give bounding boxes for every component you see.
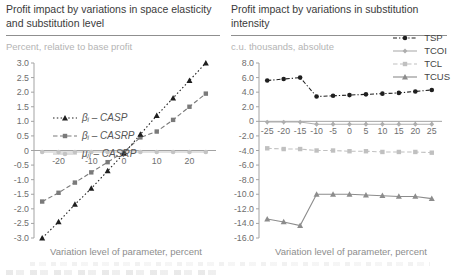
svg-text:2.0: 2.0 [242, 101, 254, 111]
legend-item-casrp-beta: βᵢ – CASRP [52, 127, 136, 145]
tcoi-legend-marker-icon [392, 46, 418, 56]
tcus-legend-marker-icon [392, 72, 418, 82]
svg-text:0.5: 0.5 [17, 131, 29, 141]
right-chart-svg: 8.06.04.02.00-2.0-4.0-6.0-8.0-10.0-12.0-… [231, 55, 452, 245]
legend-label-casrp-beta: βᵢ – CASRP [82, 130, 135, 141]
svg-text:6.0: 6.0 [242, 72, 254, 82]
right-chart-panel: Profit impact by variations in substitut… [226, 0, 453, 276]
legend-label-casp: βᵢ – CASP [82, 112, 127, 123]
left-xaxis-label: Variation level of parameter, percent [30, 246, 222, 257]
svg-text:-6.0: -6.0 [239, 160, 254, 170]
svg-text:-3.0: -3.0 [14, 233, 29, 243]
svg-text:0: 0 [347, 126, 352, 136]
svg-text:15: 15 [394, 126, 404, 136]
casrp-beta-legend-marker-icon [52, 131, 78, 141]
svg-text:1.0: 1.0 [17, 116, 29, 126]
svg-text:20: 20 [410, 126, 420, 136]
legend-label-casrp-mu: μⱼᵢ – CASRP [82, 148, 136, 159]
svg-text:10: 10 [378, 126, 388, 136]
svg-text:-15: -15 [294, 126, 307, 136]
left-chart-panel: Profit impact by variations in space ela… [0, 0, 226, 276]
svg-text:-20: -20 [277, 126, 290, 136]
right-chart-title-line2: intensity [231, 17, 449, 31]
legend-label-tsp: TSP [424, 32, 442, 43]
casrp-mu-legend-marker-icon [52, 149, 78, 159]
legend-item-tcoi: TCOI [392, 44, 450, 57]
right-chart-area: 8.06.04.02.00-2.0-4.0-6.0-8.0-10.0-12.0-… [231, 55, 453, 245]
right-xaxis-label: Variation level of parameter, percent [255, 246, 447, 257]
right-chart-title-line1: Profit impact by variations in substitut… [231, 3, 449, 17]
svg-text:-25: -25 [261, 126, 274, 136]
legend-item-tsp: TSP [392, 31, 450, 44]
legend-label-tcl: TCL [424, 58, 442, 69]
svg-text:2.0: 2.0 [17, 87, 29, 97]
left-chart-title-line2: and substitution level [6, 17, 224, 31]
svg-text:20: 20 [185, 155, 195, 165]
svg-text:-0.5: -0.5 [14, 160, 29, 170]
tsp-legend-marker-icon [392, 33, 418, 43]
svg-text:-14.0: -14.0 [234, 218, 254, 228]
figure-page: Profit impact by variations in space ela… [0, 0, 453, 276]
legend-item-casp: βᵢ – CASP [52, 109, 136, 127]
legend-item-tcus: TCUS [392, 70, 450, 83]
svg-text:-2.0: -2.0 [239, 131, 254, 141]
tcl-legend-marker-icon [392, 59, 418, 69]
svg-text:-1.0: -1.0 [14, 174, 29, 184]
right-chart-legend: TSP TCOI TCL TCUS [392, 31, 450, 83]
svg-text:-10: -10 [310, 126, 323, 136]
svg-text:2.5: 2.5 [17, 72, 29, 82]
left-chart-title-line1: Profit impact by variations in space ela… [6, 3, 224, 17]
svg-text:-1.5: -1.5 [14, 189, 29, 199]
left-title-divider [6, 35, 220, 36]
svg-text:-16.0: -16.0 [234, 233, 254, 243]
svg-text:0: 0 [249, 116, 254, 126]
legend-item-casrp-mu: μⱼᵢ – CASRP [52, 145, 136, 163]
legend-label-tcus: TCUS [424, 71, 450, 82]
svg-text:-2.5: -2.5 [14, 218, 29, 228]
svg-text:8.0: 8.0 [242, 58, 254, 68]
legend-label-tcoi: TCOI [424, 45, 447, 56]
left-chart-legend: βᵢ – CASP βᵢ – CASRP μⱼᵢ – CASRP [52, 109, 136, 163]
right-chart-title: Profit impact by variations in substitut… [231, 3, 449, 31]
svg-text:1.5: 1.5 [17, 101, 29, 111]
left-chart-area: 3.02.52.01.51.00.50-0.5-1.0-1.5-2.0-2.5-… [6, 55, 226, 245]
svg-text:-4.0: -4.0 [239, 145, 254, 155]
svg-text:4.0: 4.0 [242, 87, 254, 97]
svg-text:0: 0 [24, 145, 29, 155]
casp-legend-marker-icon [52, 113, 78, 123]
svg-text:-10.0: -10.0 [234, 189, 254, 199]
svg-text:-2.0: -2.0 [14, 204, 29, 214]
svg-text:-5: -5 [329, 126, 337, 136]
legend-item-tcl: TCL [392, 57, 450, 70]
svg-text:3.0: 3.0 [17, 58, 29, 68]
svg-text:5: 5 [364, 126, 369, 136]
svg-text:10: 10 [152, 155, 162, 165]
left-chart-title: Profit impact by variations in space ela… [6, 3, 224, 31]
svg-text:-12.0: -12.0 [234, 204, 254, 214]
left-chart-unit-label: Percent, relative to base profit [6, 41, 226, 53]
svg-text:25: 25 [427, 126, 437, 136]
svg-text:-8.0: -8.0 [239, 174, 254, 184]
